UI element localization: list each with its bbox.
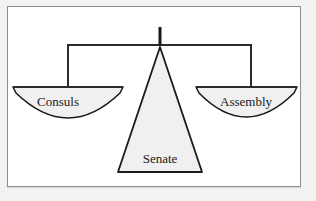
- fulcrum-label: Senate: [143, 151, 178, 166]
- left-pan-label: Consuls: [37, 94, 79, 109]
- page-background: Consuls Assembly Senate: [0, 0, 316, 201]
- balance-scale-diagram: Consuls Assembly Senate: [0, 0, 316, 201]
- right-pan-label: Assembly: [220, 94, 273, 109]
